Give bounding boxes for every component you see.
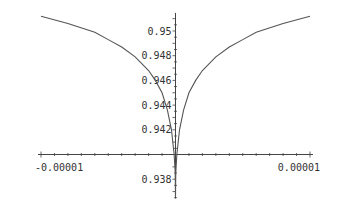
y-tick-label: 0.938	[141, 174, 171, 185]
x-tick-label: 0.00001	[278, 162, 320, 173]
y-tick-label: 0.95	[147, 26, 171, 37]
tick-labels: -0.000010.000010.950.9480.9460.9440.9420…	[35, 26, 320, 185]
y-tick-label: 0.946	[141, 75, 171, 86]
x-tick-label: -0.00001	[35, 162, 83, 173]
y-tick-label: 0.942	[141, 124, 171, 135]
line-chart: -0.000010.000010.950.9480.9460.9440.9420…	[0, 0, 347, 208]
y-tick-label: 0.948	[141, 50, 171, 61]
